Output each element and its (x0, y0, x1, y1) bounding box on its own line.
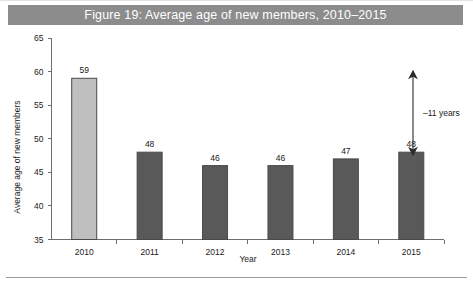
top-edge-rule (0, 0, 473, 1)
bar-chart: Average age of new members 3540455055606… (0, 25, 473, 265)
x-axis-ticks: 201020112012201320142015 (75, 240, 444, 257)
bar-value-label-2012: 46 (210, 153, 220, 163)
x-axis-tick-label: 2011 (140, 247, 159, 257)
y-axis-tick-label: 35 (34, 235, 44, 245)
y-axis-title: Average age of new members (12, 100, 22, 213)
footer-divider (6, 277, 467, 278)
bar-value-label-2015: 48 (407, 139, 417, 149)
bars-group (72, 78, 424, 239)
bar-2013[interactable] (268, 166, 293, 240)
y-axis-tick-label: 60 (34, 67, 44, 77)
x-axis-tick-label: 2010 (75, 247, 94, 257)
figure-title: Figure 19: Average age of new members, 2… (84, 8, 386, 22)
bar-2012[interactable] (203, 166, 228, 240)
age-drop-annotation: –11 years (409, 71, 459, 155)
y-axis-ticks: 35404550556065 (34, 33, 51, 245)
figure-title-bar: Figure 19: Average age of new members, 2… (8, 5, 463, 25)
y-axis-tick-label: 55 (34, 100, 44, 110)
bar-2010[interactable] (72, 78, 97, 239)
x-axis-title: Year (239, 254, 256, 264)
bar-2014[interactable] (333, 159, 358, 240)
y-axis-tick-label: 65 (34, 33, 44, 43)
bar-value-label-2010: 59 (79, 65, 89, 75)
value-labels-group: 594846464748 (79, 65, 416, 162)
bar-value-label-2013: 46 (276, 153, 286, 163)
y-axis-tick-label: 45 (34, 167, 44, 177)
bar-value-label-2014: 47 (341, 146, 351, 156)
x-axis-tick-label: 2014 (336, 247, 355, 257)
x-axis-tick-label: 2015 (402, 247, 421, 257)
bar-2015[interactable] (399, 152, 424, 239)
y-axis-tick-label: 50 (34, 134, 44, 144)
x-axis-tick-label: 2012 (206, 247, 225, 257)
x-axis-tick-label: 2013 (271, 247, 290, 257)
bar-2011[interactable] (137, 152, 162, 239)
y-axis-tick-label: 40 (34, 201, 44, 211)
bar-value-label-2011: 48 (145, 139, 155, 149)
chart-canvas: Average age of new members 3540455055606… (0, 25, 473, 265)
annotation-label: –11 years (423, 108, 460, 118)
